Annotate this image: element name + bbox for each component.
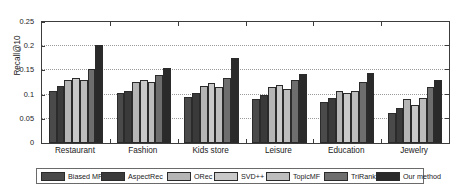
bar [291, 80, 299, 143]
x-tick [110, 22, 111, 26]
legend-swatch [214, 172, 238, 181]
bar [260, 95, 268, 143]
legend-swatch [376, 172, 400, 181]
bar [117, 93, 125, 143]
bar [208, 83, 216, 143]
x-axis-category-label: Kids store [192, 146, 228, 155]
x-axis-category-label: Fashion [128, 146, 157, 155]
bar [388, 113, 396, 143]
bar [299, 74, 307, 143]
bar [276, 85, 284, 143]
y-axis-title: Recall@10 [13, 8, 22, 104]
bar [184, 97, 192, 143]
x-tick [246, 139, 247, 143]
legend-label: SVD++ [241, 172, 264, 181]
x-tick [110, 139, 111, 143]
x-axis-category-labels: RestaurantFashionKids storeLeisureEducat… [41, 146, 450, 160]
bar [124, 91, 132, 143]
x-axis-category-label: Leisure [265, 146, 292, 155]
y-axis-tick-label: 0 [30, 139, 34, 140]
bar-group [42, 22, 110, 143]
bar-group [178, 22, 246, 143]
legend-label: AspectRec [128, 172, 163, 181]
legend-item[interactable]: ORec [167, 172, 212, 181]
bar [49, 91, 57, 143]
bar [328, 98, 336, 143]
legend-label: TopicMF [293, 172, 320, 181]
bar [72, 78, 80, 143]
x-tick [381, 22, 382, 26]
bar [215, 87, 223, 143]
bar-group [110, 22, 178, 143]
bar [57, 86, 65, 143]
legend-swatch [41, 172, 65, 181]
legend-item[interactable]: TriRank [324, 172, 376, 181]
bar [80, 80, 88, 143]
bar [367, 73, 375, 143]
bar [343, 93, 351, 143]
bar [132, 82, 140, 143]
bar [95, 45, 103, 143]
bar [148, 82, 156, 143]
bar [192, 93, 200, 143]
y-axis-tick-label: 0.15 [20, 66, 34, 67]
bar [434, 80, 442, 143]
bar [396, 108, 404, 143]
bar [419, 98, 427, 143]
legend-item[interactable]: SVD++ [214, 172, 264, 181]
y-tick-left [41, 95, 45, 96]
chart-legend: Biased MFAspectRecORecSVD++TopicMFTriRan… [36, 168, 424, 184]
bar-group [381, 22, 449, 143]
x-tick [313, 22, 314, 26]
y-axis-tick-label: 0.25 [20, 18, 34, 19]
legend-label: ORec [194, 172, 212, 181]
x-axis-category-label: Jewelry [400, 146, 428, 155]
y-tick-left [41, 70, 45, 71]
legend-label: Biased MF [68, 172, 102, 181]
x-tick [246, 22, 247, 26]
bar [320, 102, 328, 143]
bar [155, 75, 163, 143]
bar [403, 99, 411, 143]
legend-item[interactable]: TopicMF [266, 172, 320, 181]
legend-item[interactable]: Our method [376, 172, 441, 181]
bar [200, 86, 208, 143]
y-tick-left [41, 143, 45, 144]
bar [163, 68, 171, 143]
x-axis-category-label: Restaurant [55, 146, 95, 155]
bar [411, 105, 419, 143]
bar [268, 87, 276, 143]
legend-swatch [266, 172, 290, 181]
y-tick-left [41, 119, 45, 120]
bar [283, 89, 291, 143]
plot-area [41, 21, 450, 144]
bar [427, 87, 435, 143]
bar [140, 80, 148, 143]
bar [223, 78, 231, 143]
legend-item[interactable]: AspectRec [101, 172, 163, 181]
chart-figure: 00.050.10.150.20.25 Recall@10 Restaurant… [0, 0, 459, 194]
y-axis-tick-label: 0.05 [20, 115, 34, 116]
y-tick-left [41, 46, 45, 47]
legend-swatch [324, 172, 348, 181]
bar-group [246, 22, 314, 143]
y-axis-tick-label: 0.1 [24, 91, 34, 92]
bar [252, 99, 260, 143]
bar [88, 69, 96, 143]
y-axis-tick-label: 0.2 [24, 42, 34, 43]
bar [351, 91, 359, 143]
legend-swatch [167, 172, 191, 181]
x-tick [178, 139, 179, 143]
bar [336, 91, 344, 143]
x-tick [381, 139, 382, 143]
x-tick [313, 139, 314, 143]
bar [64, 80, 72, 143]
legend-item[interactable]: Biased MF [41, 172, 102, 181]
y-tick-left [41, 22, 45, 23]
bar-group [313, 22, 381, 143]
bar [231, 58, 239, 143]
x-tick [178, 22, 179, 26]
legend-label: Our method [403, 172, 441, 181]
legend-swatch [101, 172, 125, 181]
bar [359, 82, 367, 143]
